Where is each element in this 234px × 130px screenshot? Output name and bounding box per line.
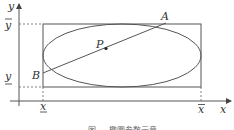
point-p-dot bbox=[104, 47, 107, 50]
figure-caption: 图 ... 椭圆参数示意 bbox=[88, 125, 157, 130]
y-min-label: y bbox=[4, 70, 12, 83]
point-p-label: P bbox=[95, 38, 104, 51]
point-a-label: A bbox=[160, 10, 169, 23]
y-axis-label: y bbox=[7, 0, 15, 13]
diagram-canvas: y x y y x x A B P 图 ... 椭圆参数示意 bbox=[0, 0, 234, 130]
point-b-label: B bbox=[31, 69, 40, 82]
x-max-label: x bbox=[198, 103, 205, 116]
x-axis-label: x bbox=[220, 103, 227, 116]
ellipse bbox=[43, 24, 201, 87]
y-max-label: y bbox=[4, 19, 12, 32]
x-min-label: x bbox=[40, 100, 47, 113]
